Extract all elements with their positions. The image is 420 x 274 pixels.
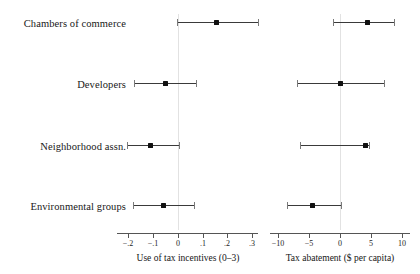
point-estimate-marker (365, 20, 370, 25)
x-axis-tick (278, 234, 279, 238)
x-axis-tick-label: 5 (369, 240, 373, 248)
point-estimate-marker (163, 81, 168, 86)
confidence-interval-bar (300, 145, 370, 146)
ci-cap-high (194, 202, 195, 209)
ci-cap-low (134, 80, 135, 87)
x-axis-tick-label: −.1 (148, 240, 159, 248)
point-estimate-marker (310, 203, 315, 208)
x-axis-line-left (117, 233, 258, 234)
point-estimate-marker (363, 143, 368, 148)
ci-cap-high (341, 202, 342, 209)
ci-cap-high (258, 19, 259, 26)
category-label-column: Chambers of commerce Developers Neighbor… (0, 0, 126, 274)
x-axis-tick-label: −10 (272, 240, 285, 248)
x-axis-tick-label: .2 (224, 240, 230, 248)
x-axis-title-left: Use of tax incentives (0–3) (137, 254, 240, 264)
x-axis-tick (252, 234, 253, 238)
x-axis-tick (128, 234, 129, 238)
zero-reference-line-right (340, 14, 341, 230)
point-estimate-marker (214, 20, 219, 25)
x-axis-tick-label: −.2 (123, 240, 134, 248)
ci-cap-high (179, 142, 180, 149)
x-axis-tick (402, 234, 403, 238)
estimate-row-developers-left (134, 79, 197, 88)
ci-cap-high (394, 19, 395, 26)
estimate-row-environmental-groups-left (133, 201, 195, 210)
x-axis-tick (309, 234, 310, 238)
x-axis-tick (153, 234, 154, 238)
ci-cap-low (297, 80, 298, 87)
panel-use-of-tax-incentives: −.2 −.1 0 .1 .2 .3 Use of tax incentives… (110, 0, 260, 274)
x-axis-tick-label: .3 (249, 240, 255, 248)
x-axis-tick (371, 234, 372, 238)
ci-cap-high (384, 80, 385, 87)
ci-cap-high (196, 80, 197, 87)
zero-reference-line-left (178, 14, 179, 230)
estimate-row-chambers-of-commerce-right (333, 18, 395, 27)
ci-cap-low (287, 202, 288, 209)
x-axis-tick-label: 0 (176, 240, 180, 248)
point-estimate-marker (338, 81, 343, 86)
point-estimate-marker (161, 203, 166, 208)
estimate-row-chambers-of-commerce-left (177, 18, 259, 27)
x-axis-title-right: Tax abatement ($ per capita) (286, 254, 395, 264)
x-axis-tick (178, 234, 179, 238)
confidence-interval-bar (287, 205, 342, 206)
estimate-row-neighborhood-assn-right (300, 141, 370, 150)
ci-cap-low (333, 19, 334, 26)
x-axis-tick (203, 234, 204, 238)
x-axis-tick (227, 234, 228, 238)
panel-tax-abatement: −10 −5 0 5 10 Tax abatement ($ per capit… (265, 0, 415, 274)
estimate-row-neighborhood-assn-left (127, 141, 180, 150)
x-axis-tick (340, 234, 341, 238)
x-axis-tick-label: .1 (200, 240, 206, 248)
ci-cap-low (127, 142, 128, 149)
estimate-row-environmental-groups-right (287, 201, 342, 210)
ci-cap-high (369, 142, 370, 149)
ci-cap-low (177, 19, 178, 26)
x-axis-tick-label: 10 (398, 240, 406, 248)
ci-cap-low (300, 142, 301, 149)
estimate-row-developers-right (297, 79, 385, 88)
ci-cap-low (133, 202, 134, 209)
x-axis-tick-label: −5 (305, 240, 314, 248)
coefficient-plot-figure: Chambers of commerce Developers Neighbor… (0, 0, 420, 274)
point-estimate-marker (148, 143, 153, 148)
confidence-interval-bar (127, 145, 180, 146)
x-axis-tick-label: 0 (338, 240, 342, 248)
